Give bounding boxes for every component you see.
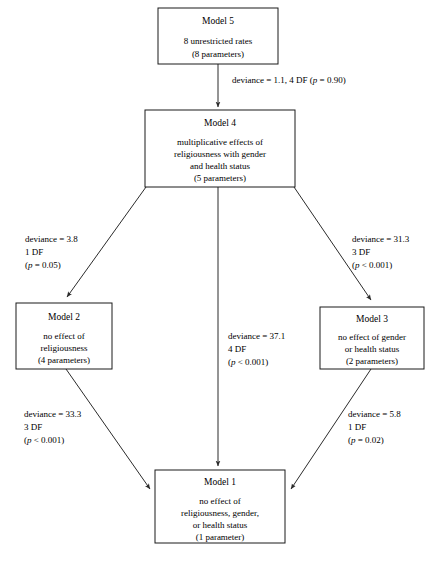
edge-4-3-line-1: deviance = 31.3 xyxy=(352,234,410,244)
model3-title: Model 3 xyxy=(356,314,388,324)
svg-text:(p < 0.001): (p < 0.001) xyxy=(352,260,392,270)
edge-label-model3-model1: deviance = 5.8 1 DF (p = 0.02) xyxy=(348,409,401,445)
model2-title: Model 2 xyxy=(48,312,80,322)
node-model4[interactable]: Model 4 multiplicative effects of religi… xyxy=(145,110,295,187)
model5-line-1: 8 unrestricted rates xyxy=(184,36,253,46)
model3-line-1: no effect of gender xyxy=(338,332,406,342)
model2-line-1: no effect of xyxy=(43,331,84,341)
model1-line-4: (1 parameter) xyxy=(196,532,245,542)
model5-line-2: (8 parameters) xyxy=(192,49,244,59)
svg-text:deviance = 1.1, 4 DF (p = 0.9: deviance = 1.1, 4 DF (p = 0.90) xyxy=(232,75,346,85)
svg-text:(p = 0.05): (p = 0.05) xyxy=(25,260,61,270)
model4-line-4: (5 parameters) xyxy=(194,173,246,183)
edge-2-1-p-suffix: < 0.001) xyxy=(32,435,65,445)
svg-text:(p < 0.001): (p < 0.001) xyxy=(24,435,64,445)
edge-3-1-p-suffix: = 0.02) xyxy=(356,435,384,445)
edge-model2-to-model1 xyxy=(66,369,150,489)
model1-line-1: no effect of xyxy=(199,496,240,506)
model1-line-3: or health status xyxy=(193,520,248,530)
model5-title: Model 5 xyxy=(202,16,234,26)
model-comparison-diagram: Model 5 8 unrestricted rates (8 paramete… xyxy=(0,0,435,564)
edge-model4-to-model2 xyxy=(67,187,146,297)
model4-title: Model 4 xyxy=(204,118,236,128)
edge-4-3-p-suffix: < 0.001) xyxy=(360,260,393,270)
edge-5-4-prefix: deviance = 1.1, 4 DF ( xyxy=(232,75,313,85)
model4-line-1: multiplicative effects of xyxy=(177,137,263,147)
node-model5[interactable]: Model 5 8 unrestricted rates (8 paramete… xyxy=(158,8,278,64)
model1-title: Model 1 xyxy=(204,477,236,487)
edge-3-1-line-1: deviance = 5.8 xyxy=(348,409,401,419)
node-model2[interactable]: Model 2 no effect of religiousness (4 pa… xyxy=(16,303,112,369)
edge-2-1-line-1: deviance = 33.3 xyxy=(24,409,82,419)
model4-line-3: and health status xyxy=(190,161,250,171)
edge-4-2-line-1: deviance = 3.8 xyxy=(25,234,78,244)
edge-2-1-line-2: 3 DF xyxy=(24,422,42,432)
svg-text:(p = 0.02): (p = 0.02) xyxy=(348,435,384,445)
edge-4-2-p-suffix: = 0.05) xyxy=(33,260,61,270)
edge-3-1-line-2: 1 DF xyxy=(348,422,366,432)
edge-4-1-line-1: deviance = 37.1 xyxy=(228,331,285,341)
model4-line-2: religiousness with gender xyxy=(174,149,266,159)
model3-line-3: (2 parameters) xyxy=(346,356,398,366)
edge-label-model4-model1: deviance = 37.1 4 DF (p < 0.001) xyxy=(228,331,285,367)
edge-label-model4-model2: deviance = 3.8 1 DF (p = 0.05) xyxy=(25,234,78,270)
model2-line-2: religiousness xyxy=(41,343,88,353)
model3-line-2: or health status xyxy=(345,344,400,354)
edge-label-model5-model4: deviance = 1.1, 4 DF (p = 0.90) xyxy=(232,75,346,85)
edge-4-1-p-suffix: < 0.001) xyxy=(236,357,269,367)
edge-label-model4-model3: deviance = 31.3 3 DF (p < 0.001) xyxy=(352,234,410,270)
model1-line-2: religiousness, gender, xyxy=(181,508,259,518)
node-model3[interactable]: Model 3 no effect of gender or health st… xyxy=(320,307,424,369)
edge-4-1-line-2: 4 DF xyxy=(228,344,246,354)
svg-text:(p < 0.001): (p < 0.001) xyxy=(228,357,268,367)
edge-4-2-line-2: 1 DF xyxy=(25,247,43,257)
edge-5-4-suffix: = 0.90) xyxy=(317,75,345,85)
edge-label-model2-model1: deviance = 33.3 3 DF (p < 0.001) xyxy=(24,409,82,445)
node-model1[interactable]: Model 1 no effect of religiousness, gend… xyxy=(155,470,285,543)
diagram-page: Model 5 8 unrestricted rates (8 paramete… xyxy=(0,0,435,564)
model2-line-3: (4 parameters) xyxy=(38,355,90,365)
edge-4-3-line-2: 3 DF xyxy=(352,247,370,257)
